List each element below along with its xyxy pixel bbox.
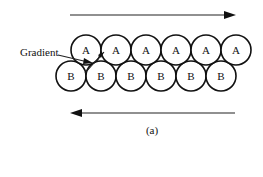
top-flow-arrow xyxy=(70,11,236,19)
bottom-flow-arrow xyxy=(70,109,235,117)
circle-a-6: A xyxy=(221,35,251,65)
gradient-label: Gradient xyxy=(20,46,58,58)
circle-b-3-label: B xyxy=(127,70,134,82)
circle-b-1-label: B xyxy=(67,70,74,82)
circle-a-5: A xyxy=(191,35,221,65)
circle-b-5-label: B xyxy=(187,70,194,82)
circle-b-1: B xyxy=(56,61,86,91)
circle-a-2: A xyxy=(101,35,131,65)
circle-b-4-label: B xyxy=(157,70,164,82)
arrow-left-icon xyxy=(70,109,82,117)
circle-a-4: A xyxy=(161,35,191,65)
shear-flow-diagram: B B B B B B A A xyxy=(0,0,263,177)
circle-b-2: B xyxy=(86,61,116,91)
circle-b-6: B xyxy=(206,61,236,91)
circle-b-5: B xyxy=(176,61,206,91)
circle-a-3: A xyxy=(131,35,161,65)
circle-a-3-label: A xyxy=(142,44,150,56)
circle-a-4-label: A xyxy=(172,44,180,56)
figure-caption: (a) xyxy=(146,124,159,137)
circle-b-6-label: B xyxy=(217,70,224,82)
circle-a-2-label: A xyxy=(112,44,120,56)
circle-b-4: B xyxy=(146,61,176,91)
circle-a-1-label: A xyxy=(82,44,90,56)
circle-b-3: B xyxy=(116,61,146,91)
circle-b-2-label: B xyxy=(97,70,104,82)
arrow-right-icon xyxy=(224,11,236,19)
circle-a-5-label: A xyxy=(202,44,210,56)
circle-a-6-label: A xyxy=(232,44,240,56)
